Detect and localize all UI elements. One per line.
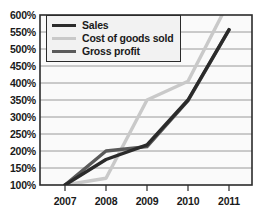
legend-item-cost-of-goods-sold: Cost of goods sold [52, 32, 173, 45]
chart-legend: Sales Cost of goods sold Gross profit [46, 15, 181, 62]
x-axis-tick-label: 2009 [136, 196, 159, 207]
x-axis-tick-label: 2011 [218, 196, 240, 207]
legend-swatch-icon [52, 24, 76, 27]
line-chart: 600% 550% 500% 450% 400% 350% 300% 250% … [0, 0, 264, 219]
legend-swatch-icon [52, 37, 76, 40]
legend-item-sales: Sales [52, 19, 173, 32]
x-axis-ticks [65, 185, 229, 191]
x-axis-tick-label: 2008 [95, 196, 118, 207]
legend-label: Cost of goods sold [82, 33, 173, 44]
x-axis: 2007 2008 2009 2010 2011 [0, 196, 264, 216]
legend-label: Sales [82, 20, 108, 31]
legend-item-gross-profit: Gross profit [52, 45, 173, 58]
legend-label: Gross profit [82, 46, 140, 57]
legend-swatch-icon [52, 50, 76, 53]
x-axis-tick-label: 2010 [177, 196, 200, 207]
x-axis-tick-label: 2007 [54, 196, 77, 207]
